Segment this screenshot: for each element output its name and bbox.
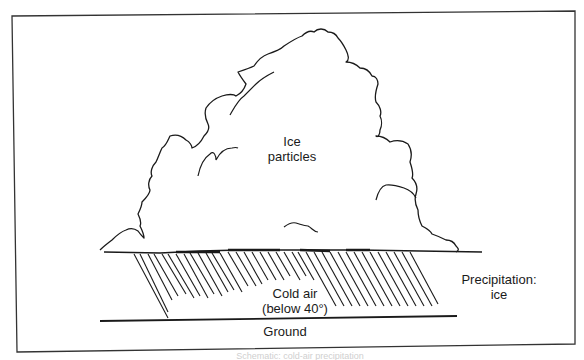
ice-particles-line-2: particles	[262, 149, 322, 164]
ice-particles-line-1: Ice	[262, 134, 322, 149]
precipitation-label: Precipitation: ice	[444, 272, 554, 302]
cloud-inner-curve-2	[198, 148, 238, 176]
figure-caption-cutoff: Schematic: cold-air precipitation	[210, 352, 390, 360]
precipitation-line-1: Precipitation:	[444, 272, 554, 287]
cold-air-label: Cold air (below 40°)	[240, 286, 350, 316]
cold-air-line-2: (below 40°)	[240, 301, 350, 316]
cloud-inner-curve-3	[376, 185, 416, 200]
cold-air-line-1: Cold air	[240, 286, 350, 301]
cloud-inner-curve-4	[284, 223, 318, 232]
precipitation-line-2: ice	[444, 287, 554, 302]
cloud-inner-curve-1	[230, 72, 274, 115]
ground-label: Ground	[230, 324, 340, 339]
diagram-stage: Ice particles Cold air (below 40°) Preci…	[0, 0, 584, 360]
ice-particles-label: Ice particles	[262, 134, 322, 164]
ground-text: Ground	[230, 324, 340, 339]
ground-line	[100, 316, 457, 321]
cloud-base-line	[104, 250, 482, 253]
